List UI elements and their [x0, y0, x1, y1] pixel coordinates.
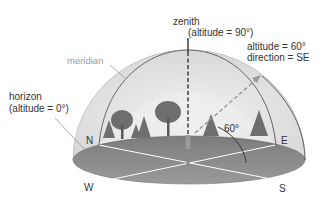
angle-label: 60° — [224, 123, 239, 134]
horizon-altitude-label: (altitude = 0°) — [9, 103, 69, 114]
zenith-label: zenith — [173, 16, 200, 27]
zenith-altitude-label: (altitude = 90°) — [188, 27, 253, 38]
west-label: W — [84, 182, 94, 193]
south-label: S — [279, 183, 286, 194]
meridian-label: meridian — [67, 55, 103, 66]
north-label: N — [86, 135, 93, 146]
horizon-label: horizon — [9, 91, 42, 102]
east-label: E — [281, 135, 288, 146]
celestial-sphere-diagram: zenith (altitude = 90°) altitude = 60° d… — [0, 0, 325, 198]
star-direction-label: direction = SE — [247, 52, 310, 63]
star-altitude-label: altitude = 60° — [247, 41, 306, 52]
